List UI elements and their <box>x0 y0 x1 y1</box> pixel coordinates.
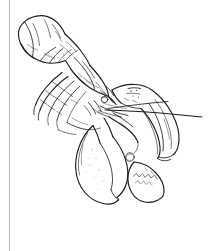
pincer-claw <box>112 84 179 160</box>
claw-linkage <box>109 113 139 154</box>
swimmerets <box>59 118 101 135</box>
crusher-claw-stipple <box>86 150 107 190</box>
antenna-long <box>105 102 202 118</box>
eye <box>101 97 108 103</box>
crusher-claw <box>76 118 164 204</box>
lobster-artwork <box>0 0 219 251</box>
lobster-drawing-svg <box>0 0 219 251</box>
abdomen <box>36 34 91 66</box>
carapace <box>66 58 109 97</box>
illustration-page <box>0 0 219 251</box>
